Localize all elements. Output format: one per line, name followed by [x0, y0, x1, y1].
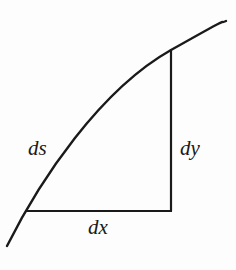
diagram-graphic — [0, 0, 236, 270]
label-dx: dx — [88, 217, 108, 238]
arc-length-diagram: ds dy dx — [0, 0, 236, 270]
label-dy: dy — [180, 138, 200, 159]
label-ds: ds — [28, 138, 47, 159]
curve-ds — [7, 21, 226, 246]
